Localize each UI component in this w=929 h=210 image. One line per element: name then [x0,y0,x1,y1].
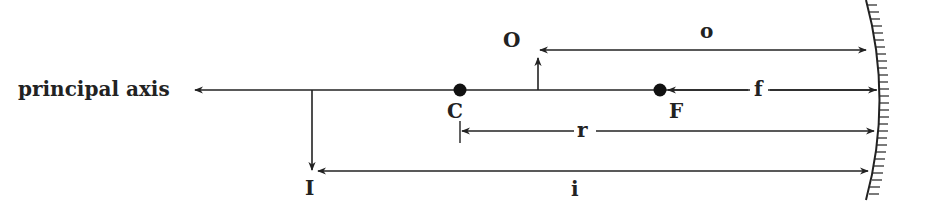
mirror-diagram: principal axis [0,0,929,210]
principal-axis-label: principal axis [18,77,170,101]
focus-label: F [669,99,683,123]
object-distance-label: o [700,19,713,43]
center-label: C [447,99,463,123]
focal-length-label: f [754,77,764,101]
center-point [454,84,467,97]
image-label: I [305,176,314,200]
image-distance-label: i [571,177,579,201]
radius-label: r [577,118,588,142]
object-label: O [503,28,520,52]
concave-mirror [866,0,889,200]
focal-point [654,84,667,97]
